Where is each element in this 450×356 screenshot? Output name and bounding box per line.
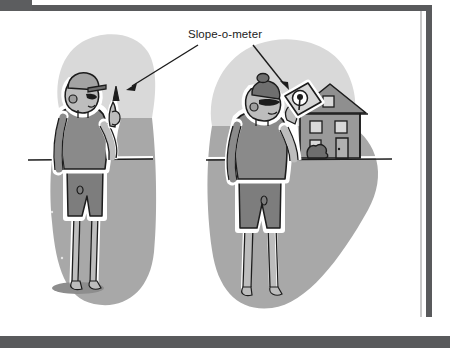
slope-o-meter-illustration: Slope-o-meter	[0, 0, 450, 356]
right-ear	[250, 103, 258, 111]
house-door-knob	[338, 148, 340, 150]
house-window-attic	[323, 96, 334, 107]
left-thumb	[112, 111, 120, 125]
right-hair-bun	[257, 74, 269, 83]
ground-speck	[51, 211, 53, 213]
ground-speck	[61, 257, 63, 259]
frame-bottom-pad	[0, 348, 450, 356]
house-window-upper-right	[335, 121, 347, 133]
right-foot-1	[242, 287, 252, 296]
house-door	[336, 138, 348, 158]
frame-right-shade	[420, 11, 422, 317]
frame-bottom-bar	[0, 336, 450, 348]
figure-container: Slope-o-meter	[0, 0, 450, 356]
frame-top-border	[32, 5, 432, 11]
device-needle	[299, 98, 300, 110]
left-ear	[69, 95, 77, 103]
corner-tab	[0, 0, 32, 11]
callout-label: Slope-o-meter	[188, 28, 262, 40]
house-window-upper-left	[310, 121, 322, 133]
frame-right-border	[426, 5, 432, 317]
house-bush	[307, 145, 328, 158]
left-foot-1	[71, 281, 82, 290]
